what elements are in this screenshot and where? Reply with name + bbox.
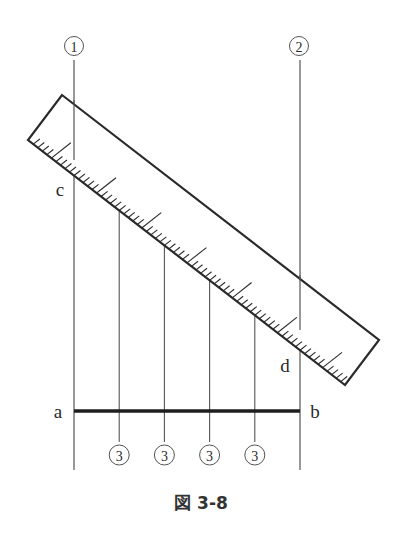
division-marker: 3 [109,445,129,465]
point-label-b: b [310,401,320,422]
label-line-1-text: 1 [71,40,78,55]
point-label-a: a [54,401,63,422]
division-marker-text: 3 [206,449,213,464]
division-marker-text: 3 [116,449,123,464]
ruler [28,95,379,385]
label-line-1: 1 [65,37,84,56]
point-label-c: c [56,179,64,200]
division-markers: 3333 [109,445,265,465]
division-marker-text: 3 [161,449,168,464]
point-label-d: d [280,355,290,376]
label-line-2-text: 2 [296,40,303,55]
division-marker: 3 [154,445,174,465]
division-diagram: 1 2 3333 a b c d 図 3-8 [0,0,402,535]
label-line-2: 2 [290,37,309,56]
division-marker: 3 [200,445,220,465]
division-marker-text: 3 [251,449,258,464]
division-marker: 3 [245,445,265,465]
figure-caption: 図 3-8 [174,493,228,513]
